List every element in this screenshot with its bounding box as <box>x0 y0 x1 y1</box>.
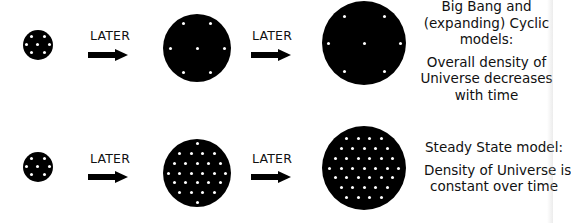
later-label: LATER <box>252 28 292 43</box>
universe-circle-expanding-early <box>23 30 53 60</box>
universe-circle-expanding-middle <box>163 14 231 82</box>
right-arrow-icon <box>251 171 291 183</box>
universe-circle-expanding-late <box>322 1 406 85</box>
edge-shadow <box>547 0 553 223</box>
universe-circle-steady-middle <box>163 139 231 207</box>
universe-circle-steady-early <box>23 152 53 182</box>
caption-body-line: with time <box>420 87 553 104</box>
caption-body-line: Universe decreases <box>420 70 553 87</box>
right-arrow-icon <box>88 171 128 183</box>
later-label: LATER <box>90 28 130 43</box>
caption-heading-line: Steady State model: <box>424 139 564 156</box>
caption-body-line: Density of Universe is <box>424 162 564 179</box>
caption-heading-line: Big Bang and <box>420 0 553 15</box>
right-arrow-icon <box>88 49 128 61</box>
right-arrow-icon <box>251 49 291 61</box>
caption-body-line: Overall density of <box>420 54 553 71</box>
later-label: LATER <box>252 151 292 166</box>
universe-circle-steady-late <box>322 126 406 210</box>
caption-heading-line: (expanding) Cyclic <box>420 15 553 32</box>
later-label: LATER <box>90 151 130 166</box>
caption-body-line: constant over time <box>424 178 564 195</box>
caption-heading-line: models: <box>420 31 553 48</box>
caption-expanding: Big Bang and (expanding) Cyclic models: … <box>420 0 553 103</box>
caption-steady-state: Steady State model: Density of Universe … <box>424 139 564 195</box>
